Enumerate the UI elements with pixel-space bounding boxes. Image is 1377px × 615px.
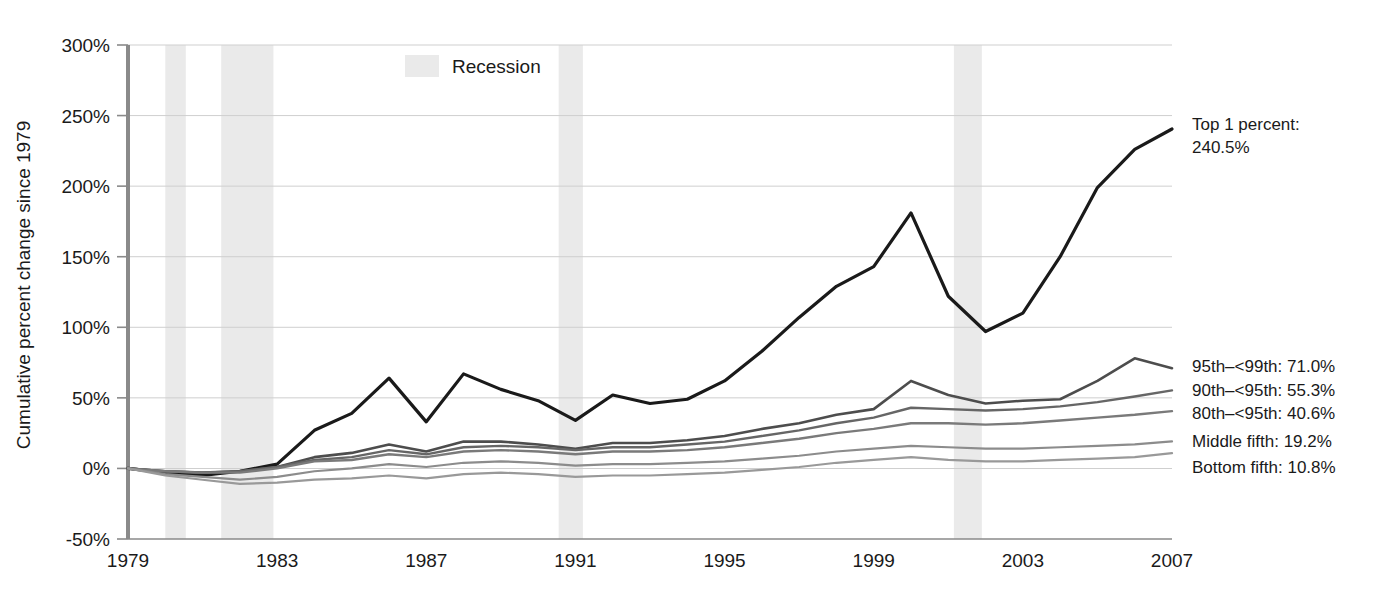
x-axis-tick-label: 1979 — [107, 550, 149, 571]
y-axis-tick-label: 150% — [61, 247, 110, 268]
x-axis-tick-label: 1999 — [853, 550, 895, 571]
series-end-labels: Top 1 percent:240.5%95th–<99th: 71.0%90t… — [1192, 115, 1336, 477]
y-axis-tick-label: 250% — [61, 106, 110, 127]
y-axis-tick-label: 100% — [61, 317, 110, 338]
y-axis-tick-label: -50% — [66, 529, 110, 550]
y-axis: 300%250%200%150%100%50%0%-50% — [61, 35, 128, 550]
series-end-label-95th-99th: 95th–<99th: 71.0% — [1192, 357, 1335, 376]
x-axis-tick-label: 1991 — [554, 550, 596, 571]
y-axis-tick-label: 0% — [83, 458, 111, 479]
series-end-label-top-1-percent: Top 1 percent: — [1192, 115, 1300, 134]
x-axis: 19791983198719911995199920032007 — [107, 539, 1193, 571]
series-end-label-bottom-fifth: Bottom fifth: 10.8% — [1192, 458, 1336, 477]
series-end-label-middle-fifth: Middle fifth: 19.2% — [1192, 432, 1332, 451]
series-end-label-80th-95th: 80th–<95th: 40.6% — [1192, 404, 1335, 423]
chart-container: 300%250%200%150%100%50%0%-50% 1979198319… — [0, 0, 1377, 615]
recession-swatch — [405, 55, 439, 77]
income-growth-line-chart: 300%250%200%150%100%50%0%-50% 1979198319… — [0, 0, 1377, 615]
legend-recession: Recession — [405, 55, 541, 77]
recession-legend-label: Recession — [452, 56, 541, 77]
recession-band — [165, 45, 186, 539]
x-axis-tick-label: 1995 — [703, 550, 745, 571]
y-axis-title-group: Cumulative percent change since 1979 — [13, 121, 34, 449]
x-axis-tick-label: 1983 — [256, 550, 298, 571]
y-axis-tick-label: 300% — [61, 35, 110, 56]
series-end-value-top-1-percent: 240.5% — [1192, 138, 1250, 157]
recession-band — [954, 45, 982, 539]
series-lines — [128, 129, 1172, 484]
y-axis-tick-label: 50% — [72, 388, 110, 409]
y-axis-tick-label: 200% — [61, 176, 110, 197]
x-axis-tick-label: 1987 — [405, 550, 447, 571]
y-axis-title: Cumulative percent change since 1979 — [13, 121, 34, 449]
series-end-label-90th-95th: 90th–<95th: 55.3% — [1192, 381, 1335, 400]
x-axis-tick-label: 2003 — [1002, 550, 1044, 571]
x-axis-tick-label: 2007 — [1151, 550, 1193, 571]
